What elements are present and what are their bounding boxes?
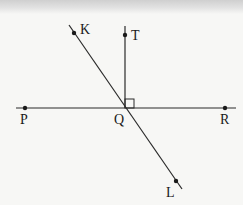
point-r bbox=[223, 106, 227, 110]
geometry-diagram: K T P Q R L bbox=[0, 0, 243, 205]
label-t: T bbox=[131, 28, 140, 43]
right-angle-marker bbox=[125, 99, 134, 108]
label-p: P bbox=[20, 112, 28, 127]
label-r: R bbox=[220, 112, 230, 127]
label-k: K bbox=[80, 22, 90, 37]
diagram-canvas: K T P Q R L bbox=[0, 0, 243, 205]
point-p bbox=[23, 106, 27, 110]
point-t bbox=[123, 33, 127, 37]
point-l bbox=[174, 179, 178, 183]
label-q: Q bbox=[114, 112, 124, 127]
label-l: L bbox=[166, 185, 175, 200]
point-k bbox=[72, 31, 76, 35]
